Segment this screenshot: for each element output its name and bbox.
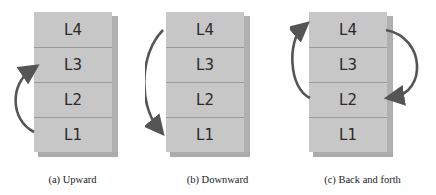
caption-upward: (a) Upward <box>0 174 145 185</box>
panel-downward: L4 L3 L2 L1 (b) Downward <box>145 0 290 195</box>
panel-back-and-forth: L4 L3 L2 L1 (c) Back and forth <box>290 0 435 195</box>
caption-downward: (b) Downward <box>145 174 290 185</box>
caption-back-and-forth: (c) Back and forth <box>290 174 435 185</box>
panel-upward: L4 L3 L2 L1 (a) Upward <box>0 0 145 195</box>
back-and-forth-arrows-icon <box>290 0 436 195</box>
downward-arrow-icon <box>145 0 290 195</box>
upward-arrow-icon <box>0 0 145 195</box>
